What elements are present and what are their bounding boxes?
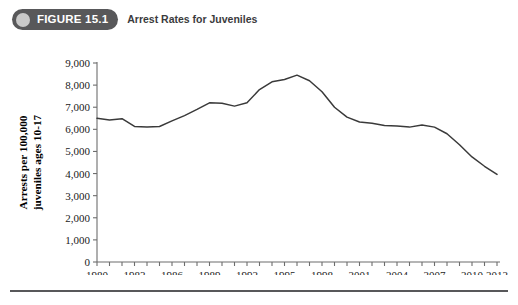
y-tick-label: 1,000 xyxy=(65,234,90,246)
y-tick-label: 8,000 xyxy=(65,79,90,91)
y-axis: 01,0002,0003,0004,0005,0006,0007,0008,00… xyxy=(65,57,97,268)
x-tick-label: 1986 xyxy=(161,269,184,275)
y-tick-label: 7,000 xyxy=(65,101,90,113)
figure-number-label: FIGURE 15.1 xyxy=(37,14,108,26)
y-tick-label: 2,000 xyxy=(65,212,90,224)
figure-header: FIGURE 15.1 Arrest Rates for Juveniles xyxy=(12,9,257,30)
x-tick-label: 1998 xyxy=(311,269,334,275)
chart-container: 01,0002,0003,0004,0005,0006,0007,0008,00… xyxy=(0,40,518,275)
x-tick-label: 1995 xyxy=(274,269,297,275)
footer-divider xyxy=(10,290,508,292)
y-axis-title-line: Arrests per 100,000 xyxy=(17,115,29,209)
data-series-group xyxy=(97,75,497,174)
x-tick-label: 2004 xyxy=(386,269,409,275)
x-tick-label: 1983 xyxy=(124,269,147,275)
figure-root: FIGURE 15.1 Arrest Rates for Juveniles 0… xyxy=(0,0,518,305)
y-tick-label: 4,000 xyxy=(65,168,90,180)
y-axis-title-line: juveniles ages 10-17 xyxy=(31,114,43,211)
y-tick-label: 6,000 xyxy=(65,123,90,135)
x-tick-label: 1992 xyxy=(236,269,258,275)
x-tick-label: 1980 xyxy=(86,269,109,275)
y-tick-label: 5,000 xyxy=(65,145,90,157)
x-tick-label: 2010 xyxy=(461,269,484,275)
x-tick-label: 1989 xyxy=(199,269,222,275)
y-tick-label: 9,000 xyxy=(65,57,90,69)
y-axis-title: Arrests per 100,000juveniles ages 10-17 xyxy=(17,114,43,211)
figure-number-badge: FIGURE 15.1 xyxy=(12,9,118,30)
data-line-juvenile-arrest-rate xyxy=(97,75,497,174)
x-axis: 1980198319861989199219951998200120042007… xyxy=(86,262,508,275)
circle-icon xyxy=(16,13,30,27)
line-chart: 01,0002,0003,0004,0005,0006,0007,0008,00… xyxy=(0,40,518,275)
y-tick-label: 3,000 xyxy=(65,190,90,202)
x-tick-label: 2001 xyxy=(349,269,371,275)
x-tick-label: 2007 xyxy=(424,269,447,275)
x-tick-label: 2012 xyxy=(486,269,508,275)
y-tick-label: 0 xyxy=(85,256,91,268)
page-title: Arrest Rates for Juveniles xyxy=(127,14,257,25)
